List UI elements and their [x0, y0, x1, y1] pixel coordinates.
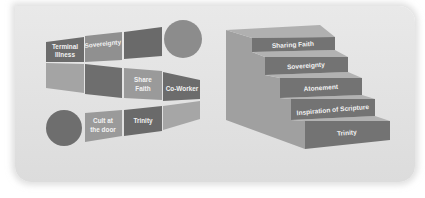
serpentine-cell-top-blank: [124, 27, 162, 59]
label-the-door: the door: [90, 126, 116, 133]
serpentine-cell-bottom-blank: [163, 101, 200, 130]
serpentine-cell-share-faith: [124, 68, 162, 100]
label-cult-at: Cult at: [93, 117, 114, 124]
label-terminal: Terminal: [52, 43, 78, 50]
serpentine-circle-bottom-left: [46, 110, 82, 146]
diagram-canvas: Terminal Illness Sovereignty Share Faith…: [0, 0, 425, 198]
label-co-worker: Co-Worker: [166, 85, 199, 92]
label-faith: Faith: [135, 85, 150, 92]
serpentine-cell-middle-2: [85, 64, 122, 98]
staircase-diagram: Sharing Faith Sovereignty Atonement Insp…: [226, 25, 390, 149]
serpentine-path-diagram: Terminal Illness Sovereignty Share Faith…: [46, 20, 202, 146]
label-trinity-left: Trinity: [133, 117, 153, 125]
label-illness: Illness: [55, 51, 75, 58]
serpentine-circle-top-right: [164, 20, 202, 58]
label-share: Share: [134, 76, 152, 83]
serpentine-cell-middle-1: [46, 63, 84, 93]
